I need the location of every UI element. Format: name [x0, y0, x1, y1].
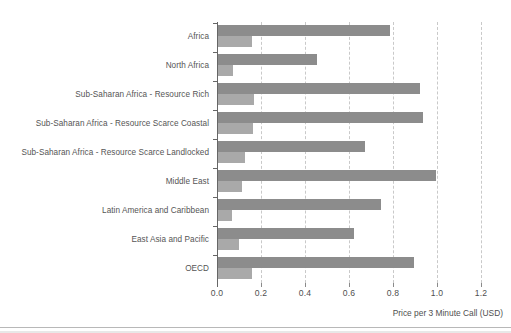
bar-group [218, 54, 510, 76]
x-tick-mark-0.6 [349, 283, 350, 287]
x-tick-label-0.2: 0.2 [241, 288, 281, 298]
bar [218, 257, 414, 268]
category-label: North Africa [0, 61, 209, 71]
category-label: Middle East [0, 177, 209, 187]
x-tick-mark-0.8 [393, 283, 394, 287]
bar [218, 170, 436, 181]
bar-chart: AfricaNorth AfricaSub-Saharan Africa - R… [0, 0, 511, 333]
bar [218, 25, 390, 36]
category-label: Sub-Saharan Africa - Resource Scarce Coa… [0, 119, 209, 129]
bar [218, 239, 239, 250]
bar-group [218, 228, 510, 250]
x-tick-label-0.8: 0.8 [373, 288, 413, 298]
category-label: East Asia and Pacific [0, 235, 209, 245]
y-axis-tick [213, 52, 217, 53]
bar [218, 94, 254, 105]
bar [218, 152, 245, 163]
category-label: Africa [0, 32, 209, 42]
plot-area [217, 22, 509, 283]
bar-group [218, 199, 510, 221]
category-label: OECD [0, 264, 209, 274]
bar-group [218, 257, 510, 279]
category-axis-labels: AfricaNorth AfricaSub-Saharan Africa - R… [0, 22, 213, 283]
x-tick-label-0.4: 0.4 [285, 288, 325, 298]
bar [218, 141, 365, 152]
x-tick-mark-1.2 [481, 283, 482, 287]
y-axis-tick [213, 81, 217, 82]
bar [218, 54, 317, 65]
x-axis-origin-tick [217, 283, 218, 287]
bar-group [218, 25, 510, 47]
bar [218, 123, 253, 134]
bar [218, 112, 423, 123]
bar [218, 36, 252, 47]
bar [218, 210, 232, 221]
category-label: Sub-Saharan Africa - Resource Scarce Lan… [0, 148, 209, 158]
category-label: Sub-Saharan Africa - Resource Rich [0, 90, 209, 100]
y-axis-tick [213, 110, 217, 111]
bar [218, 83, 420, 94]
bar-group [218, 170, 510, 192]
x-tick-label-0.0: 0.0 [197, 288, 237, 298]
page-divider-rule [0, 327, 511, 328]
bar-group [218, 112, 510, 134]
x-axis-title: Price per 3 Minute Call (USD) [393, 308, 503, 318]
y-axis-tick [213, 23, 217, 24]
bar [218, 268, 252, 279]
category-label: Latin America and Caribbean [0, 206, 209, 216]
bar [218, 181, 242, 192]
y-axis-tick [213, 255, 217, 256]
bar-group [218, 83, 510, 105]
y-axis-tick [213, 139, 217, 140]
y-axis-tick [213, 197, 217, 198]
x-tick-label-0.6: 0.6 [329, 288, 369, 298]
bar [218, 228, 354, 239]
x-tick-mark-0.4 [305, 283, 306, 287]
x-tick-mark-0.2 [261, 283, 262, 287]
y-axis-tick [213, 226, 217, 227]
x-tick-mark-1.0 [437, 283, 438, 287]
bar-group [218, 141, 510, 163]
bar [218, 199, 381, 210]
y-axis-tick [213, 168, 217, 169]
bar [218, 65, 233, 76]
x-tick-label-1.2: 1.2 [461, 288, 501, 298]
x-tick-label-1.0: 1.0 [417, 288, 457, 298]
